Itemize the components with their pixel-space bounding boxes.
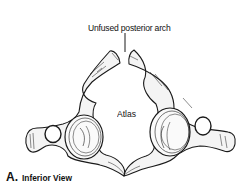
unfused-posterior-arch-label: Unfused posterior arch (88, 22, 171, 33)
caption-letter: A. (6, 170, 18, 184)
left-inferior-facet (65, 115, 103, 159)
figure-caption: A. Inferior View (6, 167, 79, 185)
right-transverse-foramen (195, 117, 211, 135)
atlas-illustration: Unfused posterior arch Atlas A. Inferior… (0, 0, 251, 186)
atlas-label: Atlas (117, 108, 136, 119)
caption-text: Inferior View (22, 172, 72, 183)
right-inferior-facet (150, 108, 190, 156)
left-transverse-foramen (45, 126, 61, 143)
